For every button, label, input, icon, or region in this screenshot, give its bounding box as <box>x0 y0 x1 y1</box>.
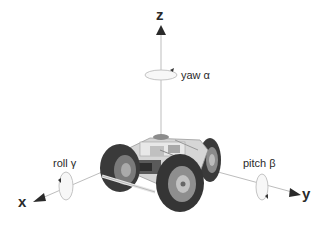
y-axis-label: y <box>302 186 310 201</box>
x-axis-label: x <box>18 194 26 209</box>
front-right-wheel <box>156 154 204 212</box>
diagram-canvas <box>0 0 330 225</box>
roll-label: roll γ <box>53 158 76 169</box>
x-arrowhead-icon <box>33 193 46 202</box>
z-arrowhead-icon <box>156 25 166 35</box>
coordinate-frame-diagram: z yaw α roll γ pitch β x y <box>0 0 330 225</box>
pitch-label: pitch β <box>243 158 276 169</box>
pitch-rotation-icon <box>256 174 268 200</box>
roll-rotation-icon <box>58 172 73 200</box>
z-axis-label: z <box>156 7 164 22</box>
yaw-label: yaw α <box>181 70 210 81</box>
rover-robot <box>100 134 221 212</box>
z-axis <box>156 25 166 140</box>
yaw-rotation-icon <box>145 68 177 80</box>
y-arrowhead-icon <box>289 188 301 197</box>
